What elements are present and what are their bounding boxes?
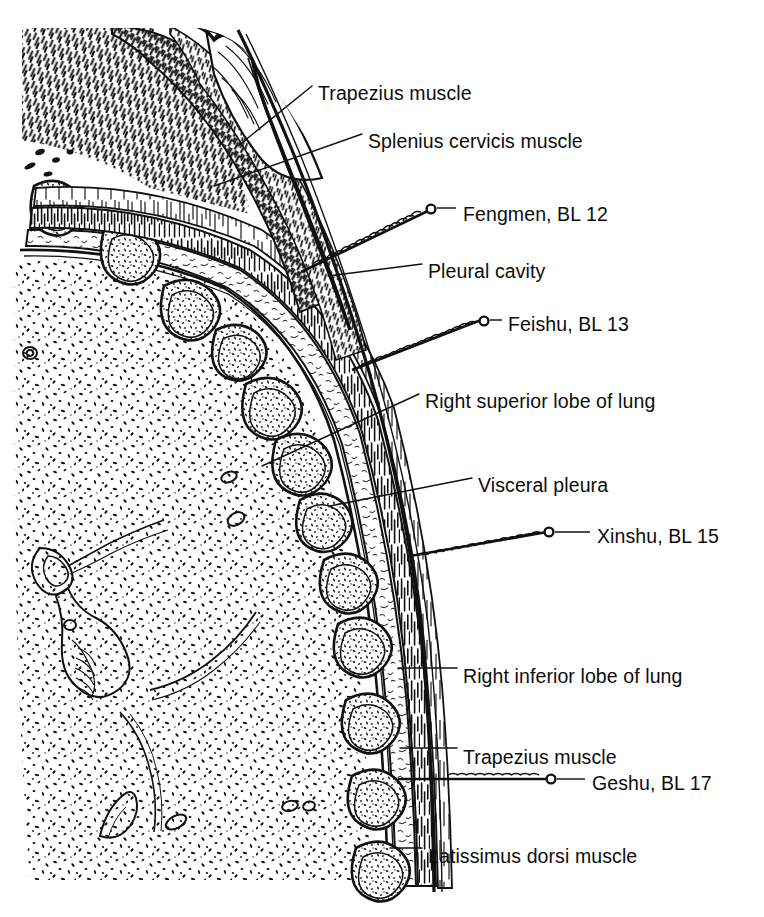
label-visceral-pleura: Visceral pleura xyxy=(478,474,608,497)
label-pleural-cavity: Pleural cavity xyxy=(428,260,545,283)
label-right-superior-lobe: Right superior lobe of lung xyxy=(425,390,655,413)
figure-canvas: Trapezius muscle Splenius cervicis muscl… xyxy=(0,0,764,917)
label-trapezius-upper: Trapezius muscle xyxy=(318,82,472,105)
label-latissimus-dorsi: Latissimus dorsi muscle xyxy=(428,845,637,868)
needle-feishu xyxy=(352,317,502,370)
needle-xinshu xyxy=(410,528,590,556)
label-right-inferior-lobe: Right inferior lobe of lung xyxy=(463,665,683,688)
label-splenius-cervicis: Splenius cervicis muscle xyxy=(368,130,583,153)
label-geshu-bl17: Geshu, BL 17 xyxy=(592,772,712,795)
label-feishu-bl13: Feishu, BL 13 xyxy=(508,313,629,336)
label-fengmen-bl12: Fengmen, BL 12 xyxy=(463,203,608,226)
label-trapezius-lower: Trapezius muscle xyxy=(463,746,617,769)
label-xinshu-bl15: Xinshu, BL 15 xyxy=(597,525,719,548)
